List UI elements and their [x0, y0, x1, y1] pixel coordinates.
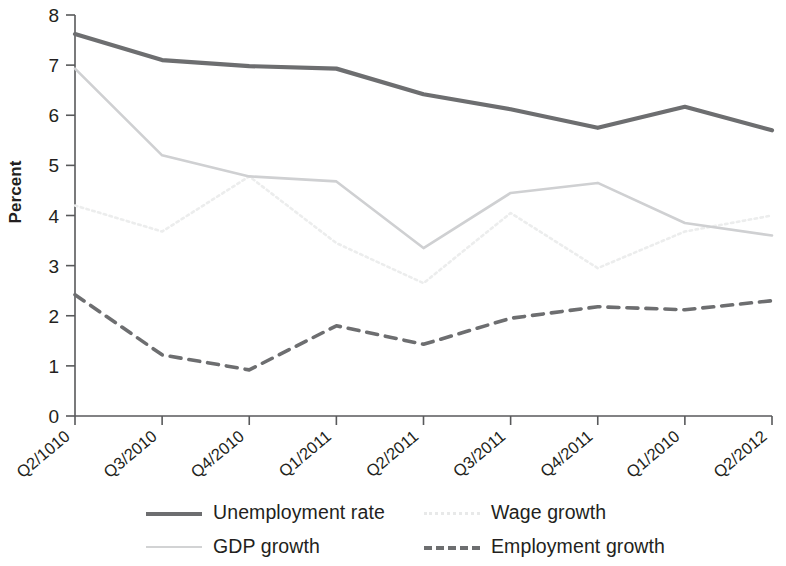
legend-label-wage-growth: Wage growth [491, 501, 606, 524]
x-tick-label: Q4/2010 [187, 427, 247, 481]
chart-legend: Unemployment rate Wage growth GDP growth… [146, 495, 746, 563]
legend-label-employment-growth: Employment growth [491, 535, 665, 558]
x-tick-label: Q3/2011 [449, 427, 508, 481]
x-tick-label: Q4/2011 [537, 427, 596, 481]
legend-label-unemployment-rate: Unemployment rate [213, 501, 385, 524]
x-tick-label: Q2/2011 [362, 427, 421, 481]
legend-label-gdp-growth: GDP growth [213, 535, 320, 558]
chart-container: Percent 012345678 Q2/1010Q3/2010Q4/2010Q… [0, 0, 786, 566]
legend-item-unemployment-rate[interactable]: Unemployment rate [146, 501, 424, 524]
series-line-wage-growth [75, 176, 772, 283]
legend-item-gdp-growth[interactable]: GDP growth [146, 535, 424, 558]
series-line-unemployment-rate [75, 34, 772, 130]
y-tick-label: 2 [48, 306, 59, 327]
y-tick-label: 1 [48, 356, 59, 377]
y-tick-group: 012345678 [48, 5, 75, 427]
y-axis: 012345678 [48, 5, 75, 427]
x-axis-label-group: Q2/1010Q3/2010Q4/2010Q1/2011Q2/2011Q3/20… [13, 427, 770, 481]
x-axis [75, 416, 772, 425]
legend-item-employment-growth[interactable]: Employment growth [424, 535, 724, 558]
y-tick-label: 5 [48, 155, 59, 176]
x-tick-label: Q2/2012 [710, 427, 770, 481]
x-tick-label: Q3/2010 [100, 427, 160, 481]
y-tick-label: 3 [48, 256, 59, 277]
y-tick-label: 7 [48, 55, 59, 76]
y-tick-label: 6 [48, 105, 59, 126]
x-tick-group [75, 416, 772, 425]
line-chart-plot: 012345678 Q2/1010Q3/2010Q4/2010Q1/2011Q2… [0, 0, 786, 500]
x-tick-label: Q2/1010 [13, 427, 73, 481]
y-tick-label: 4 [48, 206, 59, 227]
x-tick-label: Q1/2010 [623, 427, 683, 481]
legend-item-wage-growth[interactable]: Wage growth [424, 501, 724, 524]
data-series-group [75, 34, 772, 370]
series-line-employment-growth [75, 295, 772, 370]
x-tick-label: Q1/2011 [275, 427, 334, 481]
y-tick-label: 0 [48, 406, 59, 427]
y-tick-label: 8 [48, 5, 59, 26]
